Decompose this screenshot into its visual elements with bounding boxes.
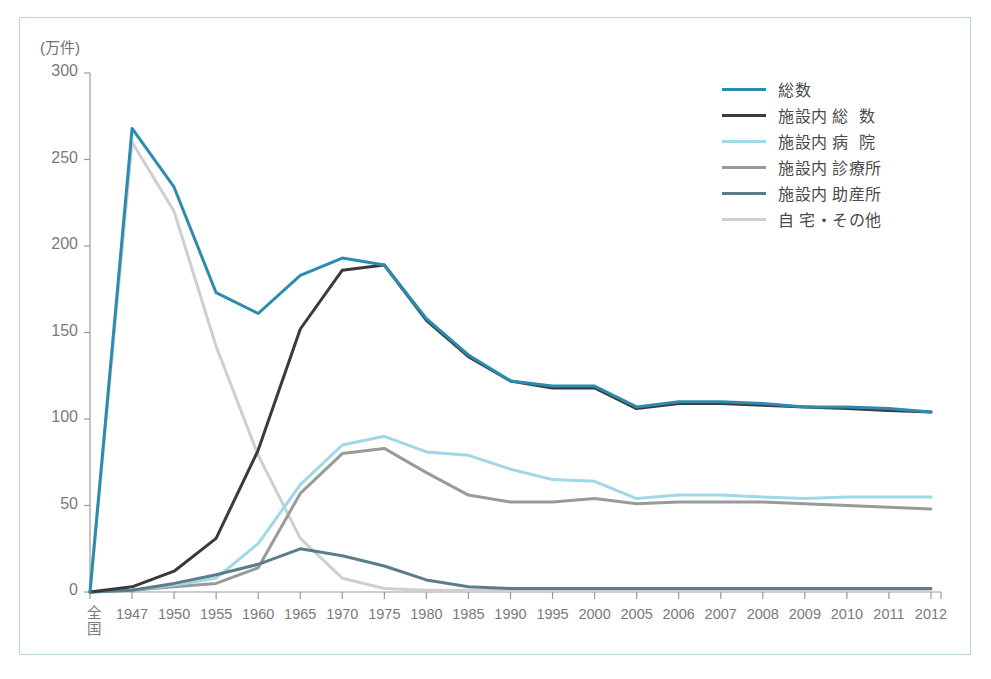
legend-item[interactable]: 施設内 診療所 xyxy=(722,154,882,180)
legend-label: 施設内 総 数 xyxy=(778,103,875,127)
x-tick-label: 2012 xyxy=(909,606,953,622)
legend-item[interactable]: 施設内 助産所 xyxy=(722,180,882,206)
legend-label: 自 宅・その他 xyxy=(778,207,882,231)
y-tick-label: 100 xyxy=(30,408,78,426)
x-tick-label: 2007 xyxy=(699,606,743,622)
legend-label: 施設内 助産所 xyxy=(778,181,882,205)
x-tick-label: 1995 xyxy=(531,606,575,622)
x-tick-label: 1950 xyxy=(152,606,196,622)
x-tick-label: 1990 xyxy=(489,606,533,622)
series-line-2 xyxy=(90,436,931,592)
chart-canvas: (万件) 050100150200250300 全国19471950195519… xyxy=(0,0,991,679)
legend-swatch-icon xyxy=(722,88,766,91)
x-tick-label: 2000 xyxy=(573,606,617,622)
x-tick-label: 2006 xyxy=(657,606,701,622)
legend-swatch-icon xyxy=(722,140,766,143)
x-tick-label: 1970 xyxy=(320,606,364,622)
y-tick-label: 0 xyxy=(30,581,78,599)
legend-label: 総数 xyxy=(778,77,811,101)
x-tick-label: 1955 xyxy=(194,606,238,622)
y-tick-label: 50 xyxy=(30,495,78,513)
legend-swatch-icon xyxy=(722,114,766,117)
legend-swatch-icon xyxy=(722,192,766,195)
y-tick-label: 250 xyxy=(30,149,78,167)
y-axis-unit-label: (万件) xyxy=(40,36,80,57)
legend-item[interactable]: 施設内 総 数 xyxy=(722,102,882,128)
legend-label: 施設内 診療所 xyxy=(778,155,882,179)
legend-item[interactable]: 自 宅・その他 xyxy=(722,206,882,232)
x-tick-label: 1975 xyxy=(362,606,406,622)
x-tick-label: 1947 xyxy=(110,606,154,622)
x-tick-label: 2011 xyxy=(867,606,911,622)
x-tick-label: 1960 xyxy=(236,606,280,622)
legend-swatch-icon xyxy=(722,166,766,169)
x-tick-label: 2010 xyxy=(825,606,869,622)
chart-legend: 総数施設内 総 数施設内 病 院施設内 診療所施設内 助産所自 宅・その他 xyxy=(722,76,882,232)
legend-item[interactable]: 施設内 病 院 xyxy=(722,128,882,154)
x-tick-label: 1965 xyxy=(278,606,322,622)
legend-label: 施設内 病 院 xyxy=(778,129,875,153)
x-tick-label: 2009 xyxy=(783,606,827,622)
legend-item[interactable]: 総数 xyxy=(722,76,882,102)
series-line-4 xyxy=(90,549,931,592)
x-tick-label: 1985 xyxy=(446,606,490,622)
series-line-1 xyxy=(90,265,931,592)
y-tick-label: 150 xyxy=(30,322,78,340)
y-tick-label: 300 xyxy=(30,62,78,80)
chart-page: (万件) 050100150200250300 全国19471950195519… xyxy=(0,0,991,679)
x-tick-label: 1980 xyxy=(404,606,448,622)
y-tick-label: 200 xyxy=(30,235,78,253)
x-tick-label: 全国 xyxy=(81,605,99,637)
x-tick-label: 2005 xyxy=(615,606,659,622)
legend-swatch-icon xyxy=(722,218,766,221)
x-tick-label: 2008 xyxy=(741,606,785,622)
